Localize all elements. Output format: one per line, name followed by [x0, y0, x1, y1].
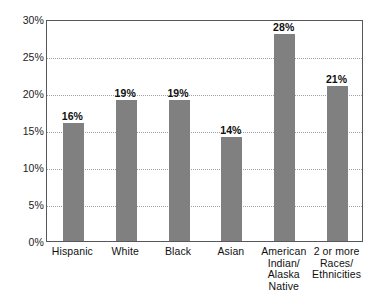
- bar-chart: HispanicWhiteBlackAsianAmerican Indian/ …: [0, 0, 387, 305]
- bar-value-label: 16%: [42, 110, 102, 122]
- y-axis-tick-label: 10%: [4, 162, 44, 174]
- y-axis-tick-label: 25%: [4, 51, 44, 63]
- y-axis-tick-label: 0%: [4, 236, 44, 248]
- gridline: [47, 169, 362, 170]
- bar-value-label: 28%: [254, 21, 314, 33]
- gridline: [47, 58, 362, 59]
- bar[interactable]: [116, 100, 137, 241]
- bar-value-label: 19%: [148, 87, 208, 99]
- y-axis-tick-label: 30%: [4, 14, 44, 26]
- bar[interactable]: [221, 137, 242, 241]
- bar-value-label: 19%: [95, 87, 155, 99]
- bar[interactable]: [274, 34, 295, 241]
- y-axis-tick-label: 20%: [4, 88, 44, 100]
- bar-value-label: 14%: [201, 124, 261, 136]
- y-axis-tick-label: 15%: [4, 125, 44, 137]
- bar[interactable]: [169, 100, 190, 241]
- bar[interactable]: [327, 86, 348, 241]
- bar-value-label: 21%: [307, 73, 367, 85]
- gridline: [47, 206, 362, 207]
- bar[interactable]: [63, 123, 84, 241]
- y-axis-tick-label: 5%: [4, 199, 44, 211]
- x-axis-category-label: 2 or more Races/ Ethnicities: [304, 246, 370, 281]
